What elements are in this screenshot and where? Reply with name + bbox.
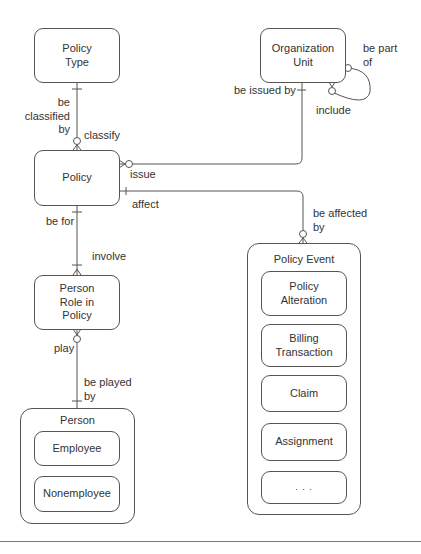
label-be-issued-by: be issued by (234, 84, 296, 98)
policy-event-title: Policy Event (248, 253, 360, 265)
employee-label: Employee (53, 442, 102, 456)
label-classify: classify (84, 129, 120, 143)
entity-person-role-in-policy[interactable]: PersonRole inPolicy (34, 275, 120, 330)
billing-transaction-line2: Transaction (275, 346, 332, 360)
person-role-line1: Person (60, 282, 95, 296)
policy-label: Policy (62, 171, 91, 185)
person-role-line3: Policy (60, 309, 95, 323)
label-be-for: be for (46, 215, 74, 229)
label-be-played-by: be played by (84, 376, 132, 403)
subtype-billing-transaction[interactable]: BillingTransaction (261, 324, 347, 367)
label-issue: issue (130, 168, 156, 182)
entity-policy-type[interactable]: PolicyType (34, 28, 120, 83)
policy-alteration-line2: Alteration (281, 294, 327, 308)
subtype-employee[interactable]: Employee (34, 431, 120, 466)
subtype-assignment[interactable]: Assignment (261, 423, 347, 461)
claim-label: Claim (290, 387, 318, 401)
label-play: play (54, 342, 74, 356)
label-involve: involve (92, 250, 126, 264)
subtype-nonemployee[interactable]: Nonemployee (34, 476, 120, 512)
entity-organization-unit[interactable]: OrganizationUnit (260, 28, 346, 83)
label-include: include (316, 104, 351, 118)
bottom-divider (0, 541, 421, 542)
label-be-affected-by: be affected by (313, 207, 367, 234)
billing-transaction-line1: Billing (275, 332, 332, 346)
more-label: . . . (295, 481, 313, 495)
label-be-classified-by: be classified by (22, 96, 70, 137)
person-title: Person (21, 414, 134, 426)
policy-type-line2: Type (62, 56, 91, 70)
nonemployee-label: Nonemployee (43, 487, 111, 501)
subtype-more[interactable]: . . . (261, 471, 347, 504)
org-unit-line1: Organization (272, 42, 334, 56)
subtype-claim[interactable]: Claim (261, 375, 347, 412)
policy-alteration-line1: Policy (281, 280, 327, 294)
person-role-line2: Role in (60, 296, 95, 310)
policy-type-line1: Policy (62, 42, 91, 56)
org-unit-line2: Unit (272, 56, 334, 70)
label-be-part-of: be part of (363, 42, 397, 69)
entity-policy[interactable]: Policy (34, 150, 120, 206)
label-affect: affect (132, 198, 159, 212)
subtype-policy-alteration[interactable]: PolicyAlteration (261, 271, 347, 316)
assignment-label: Assignment (275, 435, 332, 449)
